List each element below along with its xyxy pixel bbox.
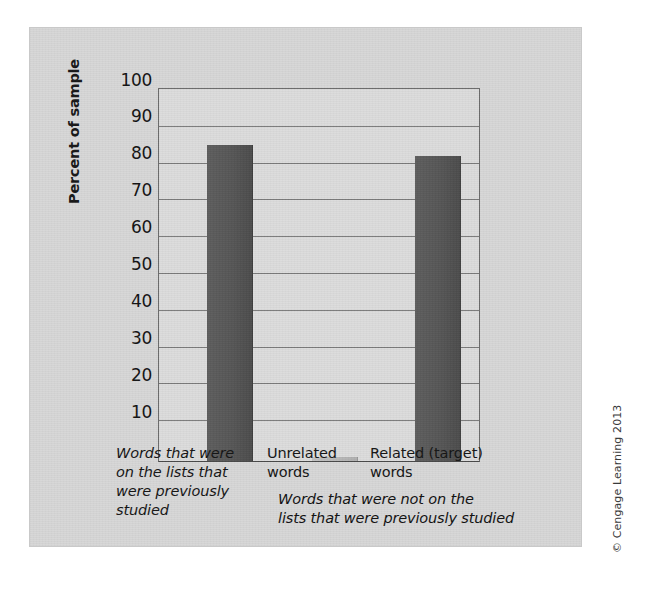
group-annotation-line: lists that were previously studied [278,509,548,528]
group-annotation-caption: Words that were not on the lists that we… [278,490,548,528]
group-annotation-line: Words that were not on the [278,490,548,509]
category-label-line: studied [116,501,246,520]
bar-related-target-words[interactable] [415,156,461,461]
plot-area [158,88,480,462]
y-tick-label: 80 [102,145,152,162]
y-tick-label: 20 [102,367,152,384]
y-tick-label: 60 [102,219,152,236]
y-tick-label: 100 [102,72,152,89]
y-axis-title: Percent of sample [66,4,82,204]
bar-body [415,156,461,461]
category-label-line: were previously [116,482,246,501]
y-tick-label: 90 [102,108,152,125]
category-label-unrelated-words: Unrelated words [267,444,377,482]
category-label-line: words [370,463,500,482]
y-axis-title-text: Percent of sample [66,59,82,204]
category-label-line: words [267,463,377,482]
copyright-credit: © Cengage Learning 2013 [611,405,624,553]
y-tick-label: 40 [102,293,152,310]
gridline-90 [159,126,479,127]
y-tick-label: 10 [102,404,152,421]
bar-body [207,145,253,461]
figure-panel: Percent of sample 100 90 80 70 60 50 40 … [30,28,581,546]
bar-words-on-lists-previously-studied[interactable] [207,145,253,461]
category-label-related-target-words: Related (target) words [370,444,500,482]
category-label-line: Unrelated [267,444,377,463]
category-label-line: Words that were [116,444,246,463]
y-tick-label: 50 [102,256,152,273]
category-label-line: on the lists that [116,463,246,482]
y-tick-label: 30 [102,330,152,347]
y-axis-tick-labels: 100 90 80 70 60 50 40 30 20 10 [102,80,152,460]
category-label-line: Related (target) [370,444,500,463]
y-tick-label: 70 [102,182,152,199]
category-label-words-on-lists: Words that were on the lists that were p… [116,444,246,519]
